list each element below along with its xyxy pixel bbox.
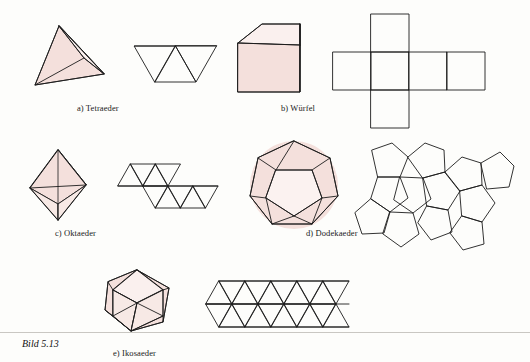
caption-dodekaeder: d) Dodekaeder xyxy=(306,228,358,238)
solids-drawing xyxy=(0,0,530,362)
figure-number-label: Bild 5.13 xyxy=(22,338,59,349)
icosahedron-net xyxy=(206,281,349,327)
platonic-solids-figure: a) Tetraeder b) Würfel c) Oktaeder d) Do… xyxy=(0,0,530,362)
dodecahedron-solid xyxy=(250,141,338,229)
octahedron-solid xyxy=(30,150,86,220)
page-edge-divider xyxy=(0,332,530,333)
tetrahedron-solid xyxy=(35,26,104,85)
figure-page: a) Tetraeder b) Würfel c) Oktaeder d) Do… xyxy=(0,0,530,362)
caption-tetraeder: a) Tetraeder xyxy=(77,103,119,113)
dodecahedron-net xyxy=(355,143,514,250)
cube-solid xyxy=(238,24,300,92)
icosahedron-solid xyxy=(105,270,169,331)
cube-net xyxy=(333,14,485,128)
caption-oktaeder: c) Oktaeder xyxy=(55,228,96,238)
caption-wuerfel: b) Würfel xyxy=(281,103,315,113)
octahedron-net xyxy=(118,164,218,208)
caption-ikosaeder: e) Ikosaeder xyxy=(113,348,156,358)
tetrahedron-net xyxy=(135,46,217,82)
